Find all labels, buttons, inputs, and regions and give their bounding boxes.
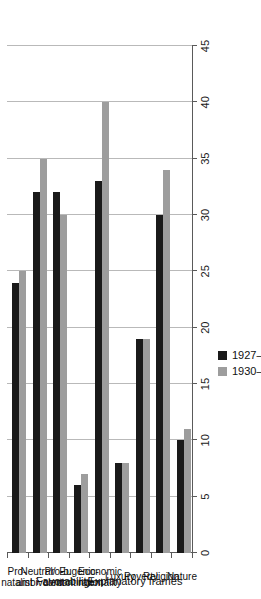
axis-tick [192,383,197,384]
legend-label: 1927–29 (158) [232,349,261,361]
legend-item[interactable]: 1927–29 (158) [218,349,261,361]
bar [19,271,26,553]
bar [177,440,184,553]
bar [81,474,88,553]
bar [40,159,47,553]
gridline [7,158,192,159]
category-separator [7,553,8,558]
axis-tick-label: 20 [199,322,211,334]
category-separator [48,553,49,558]
axis-tick [192,439,197,440]
legend-item[interactable]: 1930–35 (623) [218,365,261,377]
axis-tick-label: 30 [199,209,211,221]
axis-tick-label: 35 [199,153,211,165]
category-separator [171,553,172,558]
axis-tick-label: 15 [199,378,211,390]
bar [156,215,163,553]
bar [122,463,129,553]
rotated-chart-canvas: 051015202530354045 Pro-natalistNeutral/a… [0,0,261,599]
bar [53,192,60,553]
favorability-axis-title: Favorability [35,575,91,587]
category-separator [151,553,152,558]
axis-tick [192,327,197,328]
gridline [7,101,192,102]
axis-tick [192,45,197,46]
category-separator [110,553,111,558]
axis-tick-label: 5 [199,494,211,500]
bar [95,181,102,553]
category-separator [192,553,193,558]
axis-tick [192,101,197,102]
bar [163,170,170,553]
bar [115,463,122,553]
chart-legend: 1927–29 (158)1930–35 (623) [218,349,261,381]
category-separator [89,553,90,558]
axis-tick [192,214,197,215]
value-axis-line [192,46,193,553]
category-separator [130,553,131,558]
explanatory-frames-axis-title: Explanatory frames [87,575,182,587]
axis-tick-label: 0 [199,550,211,556]
axis-tick-label: 45 [199,40,211,52]
chart-figure: 051015202530354045 Pro-natalistNeutral/a… [0,0,261,599]
category-separator [28,553,29,558]
category-separator [69,553,70,558]
bar [33,192,40,553]
bar [184,429,191,553]
legend-label: 1930–35 (623) [232,365,261,377]
black-square-swatch-icon [218,351,227,360]
axis-tick [192,496,197,497]
bar [12,283,19,553]
axis-tick-label: 40 [199,96,211,108]
axis-tick [192,270,197,271]
axis-tick-label: 25 [199,265,211,277]
gridline [7,45,192,46]
axis-tick-label: 10 [199,434,211,446]
bar [136,339,143,553]
bar [74,485,81,553]
bar [60,215,67,553]
axis-tick [192,158,197,159]
bar [143,339,150,553]
gray-square-swatch-icon [218,367,227,376]
bar [102,102,109,553]
